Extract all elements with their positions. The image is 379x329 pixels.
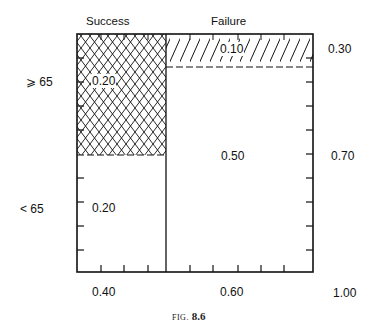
right-ticks: [306, 58, 313, 250]
row-label-lt65: < 65: [20, 202, 44, 216]
caption-number: 8.6: [192, 310, 206, 322]
total-marginal: 1.00: [333, 286, 356, 300]
row-marginal-lt65: 0.70: [331, 149, 354, 163]
row-marginal-ge65: 0.30: [328, 42, 351, 56]
figure-caption: FIG. 8.6: [172, 310, 205, 322]
cell-value-failure-ge65: 0.10: [219, 42, 244, 56]
cell-value-success-lt65: 0.20: [92, 201, 115, 215]
mosaic-diagram: [0, 0, 379, 329]
bottom-ticks: [101, 265, 284, 272]
caption-prefix: FIG.: [172, 313, 189, 322]
column-marginal-failure: 0.60: [220, 285, 243, 299]
column-marginal-success: 0.40: [92, 285, 115, 299]
cell-success-ge65: [77, 34, 166, 155]
row-label-ge65: ⩾ 65: [26, 75, 53, 89]
column-header-failure: Failure: [211, 15, 246, 27]
cell-value-success-ge65: 0.20: [91, 74, 116, 88]
cell-value-failure-lt65: 0.50: [221, 149, 244, 163]
column-header-success: Success: [86, 15, 129, 27]
